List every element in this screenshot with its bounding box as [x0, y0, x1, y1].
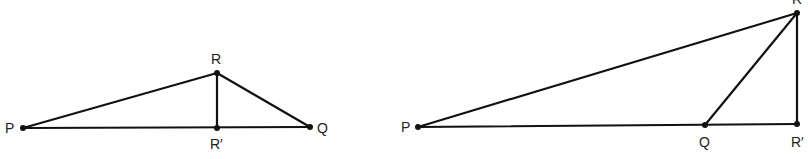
- point-R-prime: [794, 121, 800, 127]
- segment-QR: [705, 13, 797, 125]
- segment-PR: [418, 13, 797, 127]
- left-triangle-diagram: P R R′ Q: [5, 51, 328, 152]
- label-R-prime: R′: [791, 134, 804, 150]
- label-P: P: [401, 119, 410, 135]
- segment-RQ: [217, 73, 310, 127]
- label-Q: Q: [699, 134, 710, 150]
- geometry-figure: P R R′ Q P Q R R′: [0, 0, 808, 159]
- segment-PQ: [23, 127, 310, 128]
- point-R: [214, 70, 220, 76]
- right-triangle-diagram: P Q R R′: [401, 0, 804, 150]
- segment-P-R-prime: [418, 124, 797, 127]
- label-R: R: [792, 0, 802, 7]
- point-P: [20, 125, 26, 131]
- point-R: [794, 10, 800, 16]
- label-Q: Q: [317, 120, 328, 136]
- point-Q: [702, 122, 708, 128]
- label-R: R: [211, 51, 221, 67]
- point-R-prime: [214, 125, 220, 131]
- label-R-prime: R′: [210, 136, 223, 152]
- point-Q: [307, 124, 313, 130]
- point-P: [415, 124, 421, 130]
- label-P: P: [5, 120, 14, 136]
- segment-PR: [23, 73, 217, 128]
